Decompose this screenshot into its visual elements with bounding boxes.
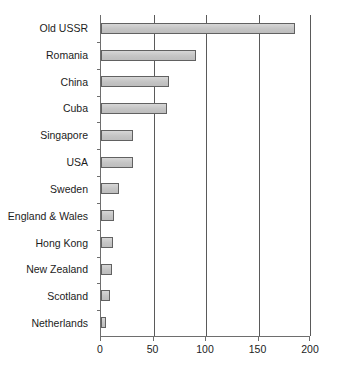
bar <box>101 50 196 61</box>
bar-row <box>101 202 310 229</box>
bar <box>101 237 113 248</box>
bar <box>101 23 295 34</box>
value-tick <box>309 337 310 341</box>
bar <box>101 157 133 168</box>
category-label-text: China <box>61 77 88 88</box>
value-axis-tick-marks <box>100 337 310 342</box>
bar-row <box>101 283 310 310</box>
category-label-text: Romania <box>46 50 88 61</box>
bar-row <box>101 95 310 122</box>
bar-row <box>101 42 310 69</box>
bar-chart: Old USSRRomaniaChinaCubaSingaporeUSASwed… <box>0 0 340 380</box>
category-label-text: Netherlands <box>31 318 88 329</box>
value-tick-label: 50 <box>147 343 159 356</box>
category-label: Hong Kong <box>0 230 94 257</box>
category-label: Scotland <box>0 283 94 310</box>
bar-row <box>101 309 310 336</box>
bar-row <box>101 15 310 42</box>
category-label: Old USSR <box>0 15 94 42</box>
category-label: New Zealand <box>0 256 94 283</box>
category-label-text: Sweden <box>50 184 88 195</box>
value-tick <box>153 337 154 341</box>
bar-row <box>101 69 310 96</box>
bar <box>101 290 110 301</box>
category-label-text: England & Wales <box>8 211 88 222</box>
category-label-text: Scotland <box>47 291 88 302</box>
bar <box>101 183 119 194</box>
category-label: Romania <box>0 42 94 69</box>
value-tick <box>205 337 206 341</box>
bar-row <box>101 229 310 256</box>
category-label-text: Hong Kong <box>35 238 88 249</box>
bar <box>101 76 169 87</box>
value-tick-label: 150 <box>249 343 267 356</box>
category-label-text: Old USSR <box>40 23 88 34</box>
category-label-text: USA <box>66 157 88 168</box>
category-label-text: Cuba <box>63 103 88 114</box>
category-axis: Old USSRRomaniaChinaCubaSingaporeUSASwed… <box>0 15 94 337</box>
category-label: USA <box>0 149 94 176</box>
bar <box>101 103 167 114</box>
bar-row <box>101 256 310 283</box>
bar <box>101 130 133 141</box>
bar-row <box>101 122 310 149</box>
bar <box>101 264 112 275</box>
category-label: England & Wales <box>0 203 94 230</box>
category-label: Netherlands <box>0 310 94 337</box>
bar <box>101 317 106 328</box>
value-tick-label: 0 <box>97 343 103 356</box>
plot-area <box>100 15 310 337</box>
category-label: Sweden <box>0 176 94 203</box>
value-tick-label: 200 <box>301 343 319 356</box>
bar-row <box>101 176 310 203</box>
value-tick-label: 100 <box>196 343 214 356</box>
category-label-text: New Zealand <box>26 264 88 275</box>
category-label: Cuba <box>0 95 94 122</box>
category-label-text: Singapore <box>40 130 88 141</box>
value-axis-labels: 050100150200 <box>100 343 310 359</box>
bar-row <box>101 149 310 176</box>
value-tick <box>258 337 259 341</box>
category-label: China <box>0 69 94 96</box>
bar <box>101 210 114 221</box>
gridline <box>310 15 311 336</box>
category-label: Singapore <box>0 122 94 149</box>
value-tick <box>100 337 101 341</box>
bars-layer <box>101 15 310 336</box>
